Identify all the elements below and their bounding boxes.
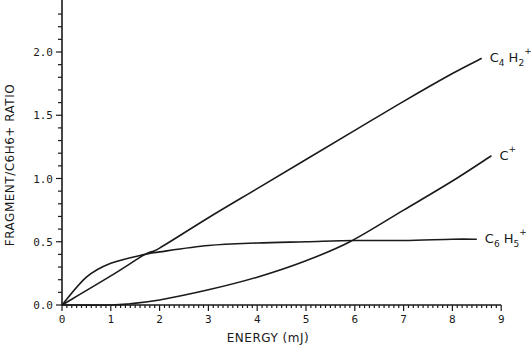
- y-tick-label: 0.5: [33, 236, 53, 249]
- y-tick-label: 1.0: [33, 173, 53, 186]
- series-labels: C4 H2+C+C6 H5+: [485, 46, 531, 249]
- series-line-c6h5-plus: [62, 239, 477, 305]
- x-tick-label: 1: [107, 313, 114, 326]
- x-tick-label: 5: [303, 313, 310, 326]
- series-line-c-plus: [62, 156, 491, 305]
- axes: [62, 0, 501, 305]
- x-tick-label: 6: [351, 313, 358, 326]
- x-axis-title: ENERGY (mJ): [227, 331, 309, 345]
- x-tick-label: 9: [498, 313, 505, 326]
- x-tick-label: 8: [449, 313, 456, 326]
- series-label-c-plus: C+: [499, 144, 516, 163]
- series-label-c4h2-plus: C4 H2+: [490, 46, 531, 68]
- x-tick-label: 7: [400, 313, 407, 326]
- y-axis-title: FRAGMENT/C6H6+ RATIO: [3, 84, 17, 246]
- x-tick-label: 4: [254, 313, 261, 326]
- y-tick-label: 1.5: [33, 109, 53, 122]
- x-tick-label: 2: [156, 313, 163, 326]
- x-tick-label: 3: [205, 313, 212, 326]
- series-line-c4h2-plus: [62, 58, 482, 305]
- series-curves: [62, 58, 491, 305]
- y-tick-label: 0.0: [33, 299, 53, 312]
- line-chart: 0.00.51.01.52.0 0123456789 C4 H2+C+C6 H5…: [0, 0, 531, 349]
- x-tick-label: 0: [59, 313, 66, 326]
- y-tick-label: 2.0: [33, 46, 53, 59]
- y-axis-ticks: 0.00.51.01.52.0: [33, 14, 62, 312]
- series-label-c6h5-plus: C6 H5+: [485, 227, 527, 249]
- x-axis-ticks: 0123456789: [59, 305, 505, 326]
